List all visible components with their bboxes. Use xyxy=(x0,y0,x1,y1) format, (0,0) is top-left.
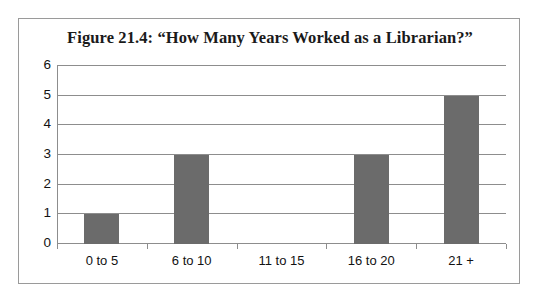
y-tick-label-0: 0 xyxy=(25,236,51,250)
x-tick xyxy=(237,244,238,249)
bars-group xyxy=(57,65,506,244)
y-tick-label-2: 2 xyxy=(25,177,51,191)
bar xyxy=(444,96,479,244)
y-tick-label-1: 1 xyxy=(25,206,51,220)
x-tick xyxy=(326,244,327,249)
x-tick xyxy=(506,244,507,249)
figure-root: Figure 21.4: “How Many Years Worked as a… xyxy=(0,0,533,303)
y-tick-label-3: 3 xyxy=(25,147,51,161)
bar xyxy=(354,155,389,244)
figure-frame: Figure 21.4: “How Many Years Worked as a… xyxy=(18,18,520,284)
y-tick-label-4: 4 xyxy=(25,117,51,131)
x-axis-label-4: 16 to 20 xyxy=(326,253,416,269)
plot-wrap: 0123456 0 to 56 to 1011 to 1516 to 2021 … xyxy=(19,19,521,285)
y-axis-labels: 0123456 xyxy=(19,65,51,244)
x-axis-label-5: 21 + xyxy=(416,253,506,269)
x-tick xyxy=(416,244,417,249)
x-tick xyxy=(57,244,58,249)
bar xyxy=(84,214,119,244)
x-axis-label-2: 6 to 10 xyxy=(147,253,237,269)
y-tick-label-5: 5 xyxy=(25,88,51,102)
x-axis-ticks xyxy=(57,244,506,250)
x-axis-labels: 0 to 56 to 1011 to 1516 to 2021 + xyxy=(57,253,506,273)
x-axis-label-3: 11 to 15 xyxy=(237,253,327,269)
x-axis-label-1: 0 to 5 xyxy=(57,253,147,269)
bar xyxy=(174,155,209,244)
x-tick xyxy=(147,244,148,249)
y-tick-label-6: 6 xyxy=(25,58,51,72)
